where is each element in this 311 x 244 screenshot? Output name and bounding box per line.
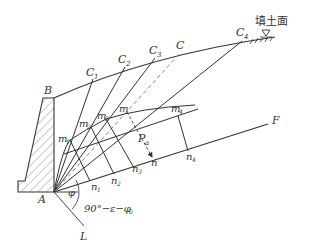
label-n2: n2 [111, 175, 121, 187]
surface-label: 填土面 [255, 14, 288, 28]
svg-text:4: 4 [178, 108, 183, 115]
svg-text:2: 2 [125, 60, 131, 68]
svg-text:1: 1 [94, 73, 98, 81]
label-Pa: Pa [137, 132, 149, 147]
svg-text:90°−ε−φ: 90°−ε−φ [84, 203, 131, 214]
label-m4: m4 [171, 103, 183, 115]
svg-text:1: 1 [66, 138, 70, 145]
label-C4: C4 [236, 26, 248, 41]
retaining-wall [18, 98, 54, 192]
svg-text:0: 0 [129, 208, 133, 215]
label-C1: C1 [86, 66, 98, 81]
svg-text:3: 3 [138, 168, 142, 175]
svg-text:2: 2 [116, 180, 121, 187]
label-m1: m1 [58, 133, 70, 145]
label-phi: φ [68, 187, 75, 198]
surface-marker-icon [262, 30, 270, 36]
label-m: m [119, 103, 128, 114]
label-C2: C2 [118, 53, 131, 68]
label-n1: n1 [91, 181, 101, 193]
svg-text:a: a [145, 139, 149, 147]
culmann-diagram: B A L F C C1 C2 C3 C4 填土面 m1 m2 m3 m m4 … [0, 0, 311, 244]
label-F: F [271, 114, 280, 127]
label-C: C [176, 39, 185, 52]
label-n4: n4 [186, 151, 196, 163]
svg-text:4: 4 [191, 156, 196, 163]
svg-text:3: 3 [105, 115, 109, 122]
label-B: B [43, 84, 52, 97]
phi-line-AF [54, 124, 268, 192]
label-n: n [151, 157, 157, 168]
culmann-curve [54, 105, 195, 192]
svg-text:1: 1 [97, 186, 101, 193]
label-C3: C3 [149, 44, 162, 59]
label-L: L [79, 230, 87, 243]
label-angle-expression: 90°−ε−φ0 [84, 203, 133, 215]
svg-text:3: 3 [157, 51, 162, 59]
label-A: A [37, 193, 46, 206]
svg-text:4: 4 [243, 33, 248, 41]
label-m3: m3 [97, 110, 109, 122]
svg-text:2: 2 [86, 123, 91, 130]
label-m2: m2 [79, 118, 91, 130]
